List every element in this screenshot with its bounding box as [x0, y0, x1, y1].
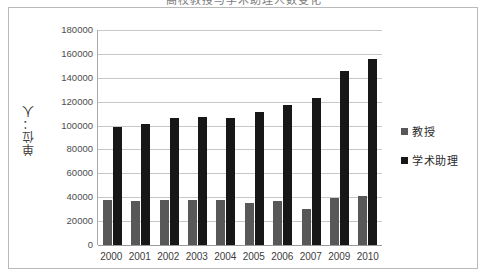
- bar[interactable]: [113, 127, 122, 245]
- bar[interactable]: [358, 196, 367, 245]
- bar[interactable]: [312, 98, 321, 245]
- x-axis-tick-label: 2000: [97, 251, 126, 262]
- bar-group: [325, 30, 353, 245]
- plot-area: [97, 30, 382, 245]
- bar-group: [240, 30, 268, 245]
- y-axis-tick-label: 160000: [37, 49, 93, 58]
- x-axis-tick-label: 2003: [183, 251, 212, 262]
- chart-frame: 单位：人 02000040000600008000010000012000014…: [8, 7, 478, 269]
- bar[interactable]: [103, 200, 112, 245]
- bar-group: [354, 30, 382, 245]
- bar-group: [268, 30, 296, 245]
- chart-legend: 教授学术助理: [401, 123, 458, 168]
- bar[interactable]: [255, 112, 264, 245]
- y-axis-tick-label: 60000: [37, 168, 93, 177]
- legend-item-label: 学术助理: [412, 152, 458, 168]
- y-axis-tick-label: 140000: [37, 73, 93, 82]
- bar[interactable]: [330, 198, 339, 245]
- legend-item[interactable]: 教授: [401, 123, 458, 139]
- y-axis-tick-label: 120000: [37, 97, 93, 106]
- bar-series-container: [98, 30, 382, 245]
- legend-item[interactable]: 学术助理: [401, 152, 458, 168]
- bar[interactable]: [340, 71, 349, 245]
- chart-title-strip: 高校教授与学术助理人数变化: [0, 0, 487, 6]
- y-axis-tick-labels: 0200004000060000800001000001200001400001…: [33, 30, 93, 245]
- y-axis-tick-label: 180000: [37, 25, 93, 34]
- x-axis-tick-label: 2010: [354, 251, 383, 262]
- bar[interactable]: [226, 118, 235, 245]
- bar[interactable]: [302, 209, 311, 245]
- x-axis-tick-label: 2006: [268, 251, 297, 262]
- bar-group: [155, 30, 183, 245]
- legend-swatch-icon: [401, 128, 408, 135]
- bar-group: [212, 30, 240, 245]
- bar[interactable]: [141, 124, 150, 245]
- bar[interactable]: [170, 118, 179, 245]
- bar[interactable]: [131, 201, 140, 245]
- x-axis-tick-label: 2001: [126, 251, 155, 262]
- bar[interactable]: [368, 59, 377, 245]
- chart-title: 高校教授与学术助理人数变化: [0, 0, 487, 6]
- legend-swatch-icon: [401, 157, 408, 164]
- bar[interactable]: [188, 200, 197, 245]
- bar-group: [98, 30, 126, 245]
- x-axis-tick-label: 2007: [297, 251, 326, 262]
- x-axis-tick-label: 2004: [211, 251, 240, 262]
- legend-item-label: 教授: [412, 123, 435, 139]
- bar[interactable]: [198, 117, 207, 245]
- bar[interactable]: [160, 200, 169, 245]
- gridline: [98, 245, 382, 246]
- x-axis-tick-labels: 2000200120022003200420052006200720092010: [97, 251, 382, 262]
- x-axis-tick-label: 2009: [325, 251, 354, 262]
- bar[interactable]: [245, 203, 254, 245]
- bar[interactable]: [273, 201, 282, 245]
- y-axis-tick-label: 80000: [37, 144, 93, 153]
- y-axis-tick-label: 20000: [37, 216, 93, 225]
- x-axis-tick-label: 2005: [240, 251, 269, 262]
- x-axis-tick-label: 2002: [154, 251, 183, 262]
- bar[interactable]: [283, 105, 292, 245]
- bar-group: [126, 30, 154, 245]
- bar-group: [297, 30, 325, 245]
- y-axis-tick-label: 40000: [37, 192, 93, 201]
- y-axis-tick-label: 0: [37, 240, 93, 249]
- bar-group: [183, 30, 211, 245]
- y-axis-tick-label: 100000: [37, 121, 93, 130]
- bar[interactable]: [216, 200, 225, 245]
